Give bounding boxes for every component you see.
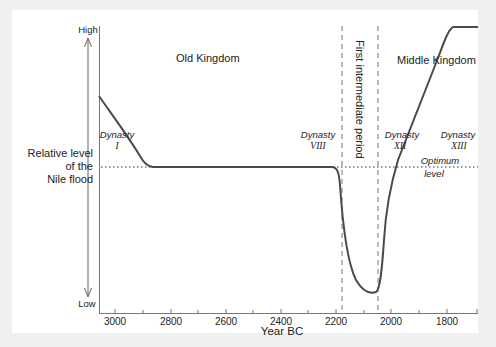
optimum-label: Optimum [421, 155, 460, 166]
y-low-label: Low [78, 298, 96, 309]
dynasty-xiii-label: Dynasty [441, 129, 477, 140]
dynasty-i-numeral: I [114, 141, 119, 151]
dynasty-viii-numeral: VIII [310, 141, 326, 151]
dynasty-xiii-numeral: XIII [450, 141, 467, 151]
x-tick-label: 1800 [436, 316, 459, 327]
dynasty-viii-label: Dynasty [301, 129, 337, 140]
y-axis-title-line3: Nile flood [47, 173, 93, 185]
dynasty-i-label: Dynasty [100, 129, 136, 140]
x-tick-label: 2000 [380, 316, 403, 327]
first-intermediate-label: First intermediate period [354, 40, 366, 159]
x-tick-label: 3000 [104, 316, 127, 327]
dynasty-xii-numeral: XII [393, 141, 407, 151]
x-axis-title: Year BC [261, 325, 303, 337]
y-axis-title-line1: Relative level [28, 147, 93, 159]
x-tick-label: 2200 [325, 316, 348, 327]
middle-kingdom-label: Middle Kingdom [397, 54, 476, 66]
nile-flood-chart: 3000 2800 2600 2400 2200 2000 1800 Year … [0, 0, 496, 347]
y-high-label: High [78, 24, 98, 35]
x-ticks [115, 309, 477, 313]
x-tick-label: 2800 [160, 316, 183, 327]
dynasty-xii-label: Dynasty [385, 129, 421, 140]
old-kingdom-label: Old Kingdom [176, 52, 240, 64]
optimum-level-label: level [424, 168, 444, 179]
y-axis-title-line2: of the [65, 160, 93, 172]
x-tick-label: 2600 [215, 316, 238, 327]
